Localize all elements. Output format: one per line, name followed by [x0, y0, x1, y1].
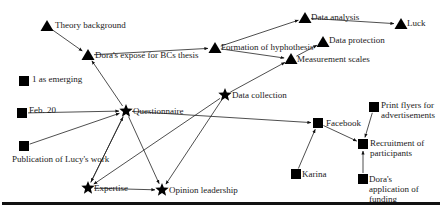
node-expertise-star-icon — [81, 181, 94, 194]
edge-flyers-to-recruitment — [365, 113, 372, 138]
node-facebook-square-icon — [313, 118, 323, 128]
node-label-expose: Dora's exposé for BCs thesis — [95, 50, 199, 60]
node-feb20-square-icon — [17, 108, 27, 118]
node-opinion-star-icon — [155, 183, 168, 196]
node-hypothesis-triangle-icon — [209, 42, 222, 53]
node-label-facebook: Facebook — [326, 118, 361, 128]
node-label-opinion: Opinion leadership — [169, 185, 238, 195]
node-measurement-triangle-icon — [285, 53, 298, 64]
node-lucy-square-icon — [19, 141, 29, 151]
node-emerging-square-icon — [19, 76, 29, 86]
node-questionnaire-star-icon — [119, 104, 132, 117]
edge-theory-to-expose — [52, 30, 82, 52]
node-label-lucy: Publication of Lucy's work — [12, 154, 109, 164]
node-flyers-square-icon — [369, 102, 379, 112]
node-dataprotection-triangle-icon — [317, 36, 330, 47]
node-label-dataprotection: Data protection — [329, 35, 385, 45]
edge-questionnaire-to-expertise — [91, 116, 123, 181]
node-label-funding: Dora's application of funding — [369, 174, 433, 204]
edge-questionnaire-to-expose — [92, 61, 123, 106]
node-label-datacollection: Data collection — [232, 90, 287, 100]
node-label-recruitment: Recruitment of participants — [370, 138, 430, 158]
node-label-dataanalysis: Data analysis — [311, 12, 359, 22]
node-label-feb20: Feb. 20 — [29, 105, 56, 115]
node-karina-square-icon — [291, 169, 301, 179]
node-theory-triangle-icon — [41, 20, 54, 31]
node-expose-triangle-icon — [82, 49, 95, 60]
bottom-rule — [2, 202, 440, 205]
node-recruitment-square-icon — [358, 139, 368, 149]
edge-datacollection-to-measurement — [230, 62, 285, 92]
node-label-hypothesis: Formation of hyphothesis — [221, 42, 314, 52]
node-label-theory: Theory background — [55, 20, 126, 30]
node-label-expertise: Expertise — [94, 183, 128, 193]
node-label-karina: Karina — [302, 169, 327, 179]
edge-lucy-to-questionnaire — [30, 113, 120, 144]
node-label-questionnaire: Questionnaire — [133, 106, 183, 116]
node-label-measurement: Measurement scales — [297, 54, 370, 64]
node-label-emerging: 1 as emerging — [32, 74, 82, 84]
node-luck-triangle-icon — [395, 18, 408, 29]
node-label-flyers: Print flyers for advertisements — [381, 100, 439, 120]
node-funding-square-icon — [358, 174, 368, 184]
node-datacollection-star-icon — [218, 88, 231, 101]
node-label-luck: Luck — [407, 18, 426, 28]
node-dataanalysis-triangle-icon — [299, 12, 312, 23]
edge-karina-to-facebook — [298, 129, 315, 168]
